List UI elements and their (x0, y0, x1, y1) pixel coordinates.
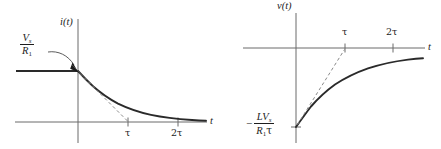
voltage-plot-tick-label-2tau: 2τ (386, 27, 397, 38)
voltage-plot-value-fraction: LVs R1τ (254, 112, 274, 136)
voltage-plot-value-annotation: − LVs R1τ (246, 112, 274, 136)
fraction-numerator: LVs (254, 112, 274, 123)
negative-sign: − (246, 118, 252, 130)
current-plot-value-fraction: Vs R1 (20, 33, 34, 56)
current-plot-leader-line (48, 52, 74, 65)
voltage-plot-x-axis-label: t (428, 42, 431, 53)
fraction-denominator: R1 (20, 44, 34, 56)
figure-container: i(t) t Vs R1 τ 2τ v(t) t τ 2τ − LVs R1τ (0, 0, 441, 149)
voltage-plot-y-axis-label: v(t) (277, 1, 292, 12)
fraction-denominator: R1τ (254, 123, 274, 136)
voltage-plot-tangent (298, 50, 345, 125)
fraction-numerator: Vs (20, 33, 34, 44)
current-plot-tick-label-tau: τ (125, 128, 130, 138)
voltage-plot-tick-label-tau: τ (342, 27, 347, 37)
current-plot-x-axis-label: t (210, 116, 213, 127)
current-plot-value-annotation: Vs R1 (20, 33, 34, 56)
current-plot-y-axis-label: i(t) (60, 17, 73, 28)
current-plot-group (15, 19, 207, 143)
current-plot-tick-label-2tau: 2τ (171, 128, 182, 139)
voltage-plot-curve (296, 58, 423, 127)
current-plot-curve (78, 71, 206, 121)
